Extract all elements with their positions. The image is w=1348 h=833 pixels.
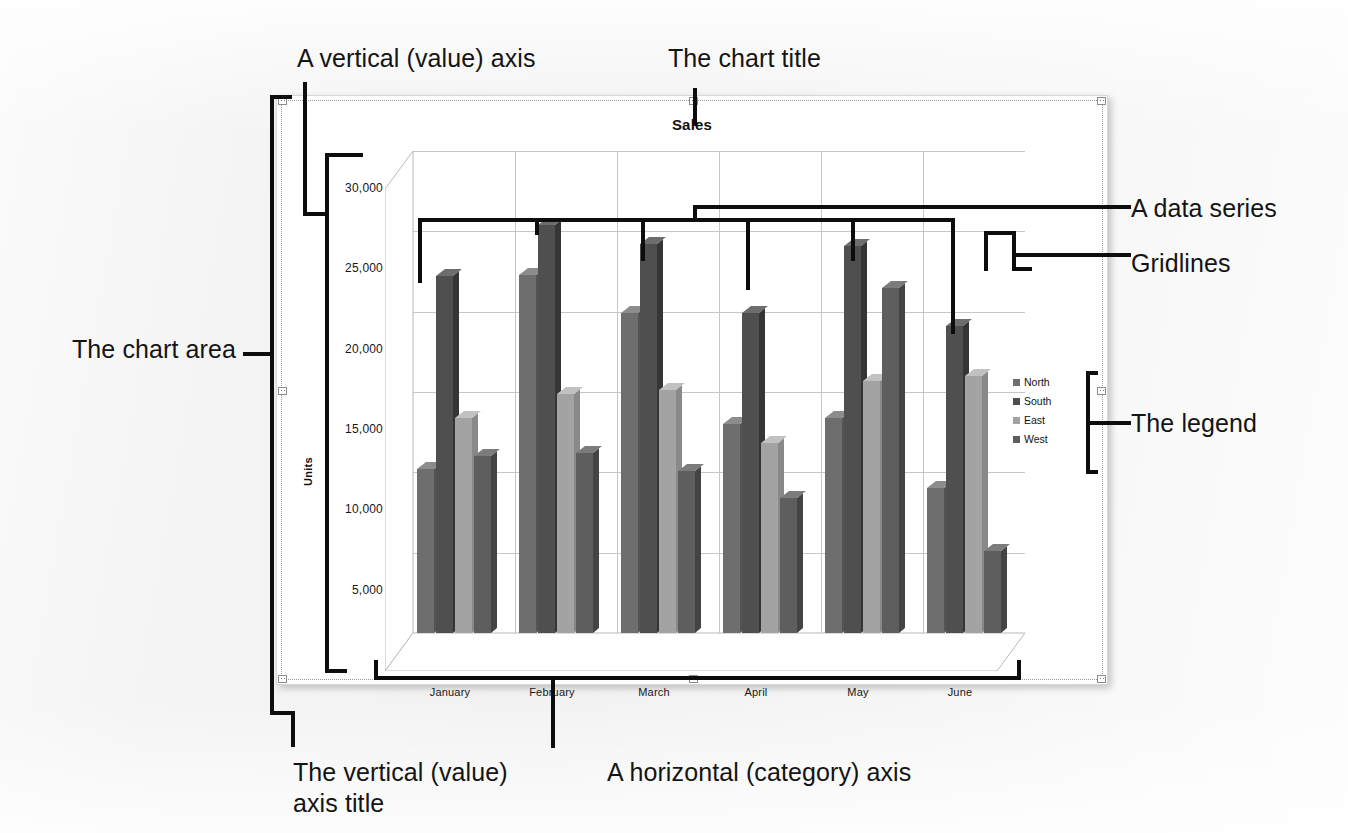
data-bar[interactable]	[678, 471, 695, 633]
data-bar-face	[678, 471, 695, 633]
leader-value-axis-long	[325, 153, 329, 673]
legend-swatch-icon	[1013, 417, 1020, 424]
category-bar-group[interactable]	[417, 151, 491, 633]
resize-handle-top-right[interactable]	[1097, 97, 1106, 105]
x-axis-tick-label: May	[807, 686, 909, 698]
data-bar[interactable]	[723, 424, 740, 633]
data-bar[interactable]	[946, 326, 963, 633]
data-bar[interactable]	[844, 246, 861, 633]
data-bar[interactable]	[761, 443, 778, 633]
leader-value-axis-riser	[303, 82, 307, 216]
data-bar-face	[474, 456, 491, 633]
chart-title[interactable]: Sales	[277, 116, 1107, 133]
resize-handle-bottom-right[interactable]	[1097, 675, 1106, 683]
plot-area[interactable]	[385, 151, 1025, 671]
data-bar-face	[927, 488, 944, 633]
data-bar-face	[659, 390, 676, 633]
data-bar[interactable]	[474, 456, 491, 633]
data-bar[interactable]	[863, 381, 880, 633]
leader-chart-area-stem	[243, 352, 274, 356]
category-bar-group[interactable]	[825, 151, 899, 633]
category-bar-group[interactable]	[927, 151, 1001, 633]
data-bar[interactable]	[538, 225, 555, 633]
leader-legend-stem	[1086, 421, 1131, 425]
data-bar[interactable]	[640, 244, 657, 633]
callout-chart-area: The chart area	[72, 334, 236, 365]
data-bar[interactable]	[965, 376, 982, 633]
leader-category-axis-right	[1017, 660, 1021, 678]
leader-category-axis-left	[374, 660, 378, 678]
data-bar-face	[946, 326, 963, 633]
legend-swatch-icon	[1013, 379, 1020, 386]
y-axis-tick-label: 20,000	[323, 342, 383, 356]
legend-item[interactable]: West	[1013, 430, 1077, 449]
data-bar[interactable]	[621, 313, 638, 633]
y-axis-tick-label: 30,000	[323, 181, 383, 195]
data-bar[interactable]	[882, 288, 899, 633]
legend-item[interactable]: North	[1013, 373, 1077, 392]
data-bar-face	[984, 551, 1001, 633]
callout-data-series: A data series	[1131, 193, 1277, 224]
x-axis[interactable]: JanuaryFebruaryMarchAprilMayJune	[385, 686, 1025, 710]
data-bar-face	[417, 469, 434, 633]
leader-gridlines-left	[984, 231, 988, 271]
y-axis-tick-label: 25,000	[323, 261, 383, 275]
x-axis-tick-label: June	[909, 686, 1011, 698]
callout-gridlines: Gridlines	[1131, 248, 1231, 279]
category-bar-group[interactable]	[723, 151, 797, 633]
chart-area[interactable]: Sales Units 5,00010,00015,00020,00025,00…	[276, 95, 1108, 685]
data-bar[interactable]	[984, 551, 1001, 633]
data-bar[interactable]	[417, 469, 434, 633]
data-bar[interactable]	[557, 394, 574, 633]
data-bar[interactable]	[742, 313, 759, 633]
leader-value-axis-top	[325, 153, 363, 157]
data-bar-face	[723, 424, 740, 633]
data-bar[interactable]	[519, 275, 536, 633]
data-bar[interactable]	[780, 498, 797, 633]
data-bar-face	[761, 443, 778, 633]
data-bar[interactable]	[927, 488, 944, 633]
data-bar[interactable]	[825, 418, 842, 633]
data-bar[interactable]	[576, 453, 593, 633]
leader-series-tick-apr	[746, 218, 750, 290]
leader-data-series-stem	[693, 205, 1131, 209]
data-bar[interactable]	[455, 418, 472, 633]
data-bar-face	[965, 376, 982, 633]
data-bar-face	[882, 288, 899, 633]
legend-swatch-icon	[1013, 436, 1020, 443]
y-axis-title[interactable]: Units	[302, 457, 314, 486]
callout-vertical-axis: A vertical (value) axis	[297, 43, 536, 74]
data-bar[interactable]	[436, 276, 453, 633]
resize-handle-bottom-left[interactable]	[278, 675, 287, 683]
category-bar-group[interactable]	[519, 151, 593, 633]
legend-label: South	[1024, 392, 1051, 411]
y-axis-tick-label: 10,000	[323, 502, 383, 516]
resize-handle-middle-left[interactable]	[278, 387, 287, 395]
leader-gridlines-riser	[1012, 231, 1016, 267]
data-bar-side	[593, 448, 599, 633]
resize-handle-middle-right[interactable]	[1097, 387, 1106, 395]
callout-legend: The legend	[1131, 408, 1257, 439]
data-bar-face	[436, 276, 453, 633]
data-series-group[interactable]	[385, 151, 1025, 671]
leader-chart-area-bottom	[270, 711, 292, 715]
leader-legend-bottom	[1086, 470, 1098, 474]
legend-label: West	[1024, 430, 1048, 449]
data-bar-face	[557, 394, 574, 633]
chart-legend[interactable]: NorthSouthEastWest	[1013, 373, 1077, 449]
leader-chart-title	[693, 88, 697, 126]
legend-swatch-icon	[1013, 398, 1020, 405]
category-bar-group[interactable]	[621, 151, 695, 633]
leader-series-tick-jan	[418, 218, 422, 283]
legend-item[interactable]: East	[1013, 411, 1077, 430]
leader-category-axis-bar	[374, 676, 1021, 680]
x-axis-tick-label: April	[705, 686, 807, 698]
data-bar-face	[863, 381, 880, 633]
leader-series-tick-may	[851, 218, 855, 261]
data-bar[interactable]	[659, 390, 676, 633]
leader-value-axis-bottom	[325, 669, 347, 673]
data-bar-side	[695, 466, 701, 633]
legend-item[interactable]: South	[1013, 392, 1077, 411]
leader-series-tick-feb	[535, 218, 539, 235]
data-bar-face	[844, 246, 861, 633]
